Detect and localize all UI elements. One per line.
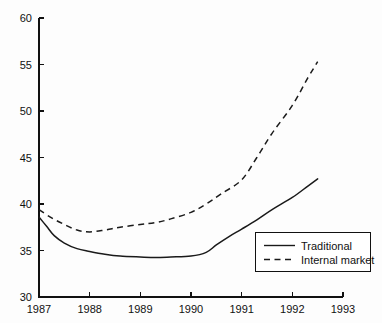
legend-label-internal-market: Internal market [301,254,374,266]
x-tick-label-1988: 1988 [77,303,101,315]
y-tick-label-55: 55 [20,59,32,71]
legend-label-traditional: Traditional [301,240,352,252]
legend-border [256,233,371,272]
line-chart: 30354045505560 1987198819891990199119921… [0,0,382,323]
y-tick-label-40: 40 [20,198,32,210]
y-tick-label-50: 50 [20,105,32,117]
x-tick-label-1993: 1993 [331,303,355,315]
y-tick-label-60: 60 [20,12,32,24]
y-tick-label-45: 45 [20,152,32,164]
y-tick-label-35: 35 [20,245,32,257]
x-tick-label-1989: 1989 [128,303,152,315]
chart-background [0,0,382,323]
x-tick-label-1987: 1987 [27,303,51,315]
chart-legend: Traditional Internal market [256,233,375,272]
x-tick-label-1990: 1990 [179,303,203,315]
x-tick-label-1991: 1991 [229,303,253,315]
x-tick-label-1992: 1992 [280,303,304,315]
chart-container: 30354045505560 1987198819891990199119921… [0,0,382,323]
y-tick-label-30: 30 [20,291,32,303]
